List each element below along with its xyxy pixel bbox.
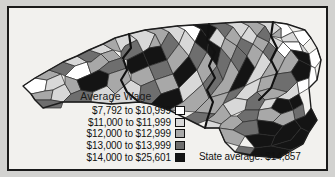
map-legend: Average Wage $7,792 to $10,999 $11,000 t…	[45, 90, 185, 163]
figure-frame: Average Wage $7,792 to $10,999 $11,000 t…	[7, 6, 328, 171]
legend-row: $11,000 to $11,999	[45, 117, 185, 129]
legend-swatch	[175, 141, 185, 150]
legend-swatch	[175, 106, 185, 115]
map-canvas: Average Wage $7,792 to $10,999 $11,000 t…	[9, 8, 330, 173]
legend-row: $13,000 to $13,999	[45, 140, 185, 152]
figure-root: Average Wage $7,792 to $10,999 $11,000 t…	[0, 0, 335, 177]
legend-row: $12,000 to $12,999	[45, 128, 185, 140]
legend-label: $7,792 to $10,999	[92, 105, 171, 116]
legend-swatch	[175, 153, 185, 162]
legend-swatch	[175, 118, 185, 127]
legend-title: Average Wage	[47, 90, 185, 102]
legend-label: $12,000 to $12,999	[87, 128, 171, 139]
legend-row: $14,000 to $25,601	[45, 151, 185, 163]
legend-label: $14,000 to $25,601	[87, 152, 171, 163]
legend-label: $13,000 to $13,999	[87, 140, 171, 151]
state-average-annotation: State average: $14,857	[199, 151, 301, 162]
legend-row: $7,792 to $10,999	[45, 105, 185, 117]
legend-swatch	[175, 129, 185, 138]
legend-label: $11,000 to $11,999	[88, 117, 171, 128]
